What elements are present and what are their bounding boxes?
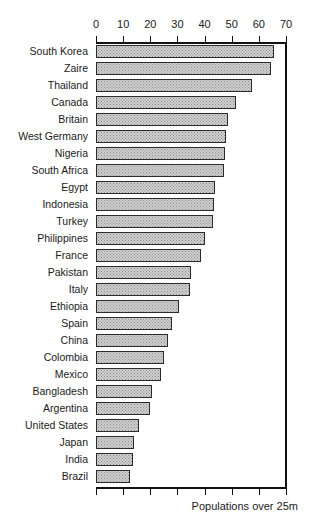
category-label: Zaire	[0, 61, 92, 78]
x-tick-label: 10	[111, 19, 135, 30]
x-tick-top	[232, 36, 233, 42]
category-label: Japan	[0, 435, 92, 452]
bar-row	[96, 112, 287, 129]
category-label: Ethiopia	[0, 299, 92, 316]
x-tick-top	[286, 36, 287, 42]
bar	[96, 198, 214, 211]
bar-row	[96, 265, 287, 282]
category-label: South Africa	[0, 163, 92, 180]
bar-row	[96, 418, 287, 435]
category-label: Egypt	[0, 180, 92, 197]
category-label: Philippines	[0, 231, 92, 248]
bar	[96, 79, 252, 92]
bar	[96, 470, 130, 483]
category-label: Thailand	[0, 78, 92, 95]
bar-row	[96, 163, 287, 180]
category-label: West Germany	[0, 129, 92, 146]
bar-row	[96, 469, 287, 486]
bar-row	[96, 95, 287, 112]
category-label: Spain	[0, 316, 92, 333]
bar	[96, 266, 191, 279]
category-label: Indonesia	[0, 197, 92, 214]
x-tick-top	[150, 36, 151, 42]
x-tick-bottom	[259, 489, 260, 495]
x-tick-label: 70	[274, 19, 298, 30]
bar-row	[96, 214, 287, 231]
bar	[96, 113, 228, 126]
bar-row	[96, 197, 287, 214]
x-tick-bottom	[96, 489, 97, 495]
x-tick-label: 0	[84, 19, 108, 30]
x-tick-label: 60	[247, 19, 271, 30]
bar	[96, 334, 168, 347]
x-tick-label: 20	[138, 19, 162, 30]
bar	[96, 164, 224, 177]
category-label: Canada	[0, 95, 92, 112]
bar-row	[96, 282, 287, 299]
x-tick-bottom	[286, 489, 287, 495]
category-label: Britain	[0, 112, 92, 129]
category-label: Turkey	[0, 214, 92, 231]
bar-row	[96, 231, 287, 248]
bar-row	[96, 180, 287, 197]
bar	[96, 419, 139, 432]
x-tick-bottom	[205, 489, 206, 495]
category-label: Pakistan	[0, 265, 92, 282]
bar-row	[96, 61, 287, 78]
bar-row	[96, 129, 287, 146]
x-tick-label: 50	[220, 19, 244, 30]
x-tick-bottom	[232, 489, 233, 495]
category-label: Italy	[0, 282, 92, 299]
x-tick-bottom	[123, 489, 124, 495]
category-label: Mexico	[0, 367, 92, 384]
bar-chart: 010203040506070 South KoreaZaireThailand…	[0, 0, 311, 526]
bar-row	[96, 333, 287, 350]
bar-row	[96, 401, 287, 418]
bar	[96, 351, 164, 364]
x-tick-label: 30	[165, 19, 189, 30]
bar-row	[96, 384, 287, 401]
bar	[96, 249, 201, 262]
bar-series	[96, 44, 287, 487]
category-label: South Korea	[0, 44, 92, 61]
x-tick-top	[177, 36, 178, 42]
bar-row	[96, 146, 287, 163]
bar	[96, 147, 225, 160]
bar-row	[96, 350, 287, 367]
bar	[96, 181, 215, 194]
bar-row	[96, 44, 287, 61]
category-label: United States	[0, 418, 92, 435]
bar-row	[96, 452, 287, 469]
bar	[96, 436, 134, 449]
category-label: India	[0, 452, 92, 469]
x-tick-top	[205, 36, 206, 42]
bar	[96, 62, 271, 75]
category-label: Brazil	[0, 469, 92, 486]
bar	[96, 45, 274, 58]
category-label: France	[0, 248, 92, 265]
bar-row	[96, 367, 287, 384]
bar	[96, 453, 133, 466]
bar-row	[96, 248, 287, 265]
bar	[96, 283, 190, 296]
x-tick-top	[96, 36, 97, 42]
category-label: Bangladesh	[0, 384, 92, 401]
chart-caption: Populations over 25m	[0, 500, 298, 512]
bar	[96, 300, 179, 313]
bar-row	[96, 299, 287, 316]
x-tick-top	[123, 36, 124, 42]
bar-row	[96, 316, 287, 333]
category-label: Nigeria	[0, 146, 92, 163]
bar-row	[96, 78, 287, 95]
x-tick-label: 40	[193, 19, 217, 30]
bar	[96, 385, 152, 398]
x-tick-top	[259, 36, 260, 42]
x-tick-bottom	[177, 489, 178, 495]
bar	[96, 317, 172, 330]
x-tick-bottom	[150, 489, 151, 495]
bar	[96, 368, 161, 381]
bar	[96, 215, 213, 228]
bar	[96, 232, 205, 245]
bar	[96, 130, 226, 143]
category-label: Colombia	[0, 350, 92, 367]
